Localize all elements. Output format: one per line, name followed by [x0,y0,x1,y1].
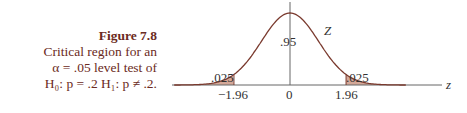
normal-curve-chart: .025 .95 .025 Z −1.96 0 1.96 z [0,0,467,113]
tick-0: 0 [286,87,293,102]
right-tail-label: .025 [346,70,369,85]
tick-neg-1-96: −1.96 [218,87,249,102]
tick-1-96: 1.96 [335,87,358,102]
center-area-label: .95 [280,34,296,49]
left-tail-label: .025 [211,70,234,85]
curve-label: Z [324,23,332,38]
x-axis-label: z [445,77,451,92]
